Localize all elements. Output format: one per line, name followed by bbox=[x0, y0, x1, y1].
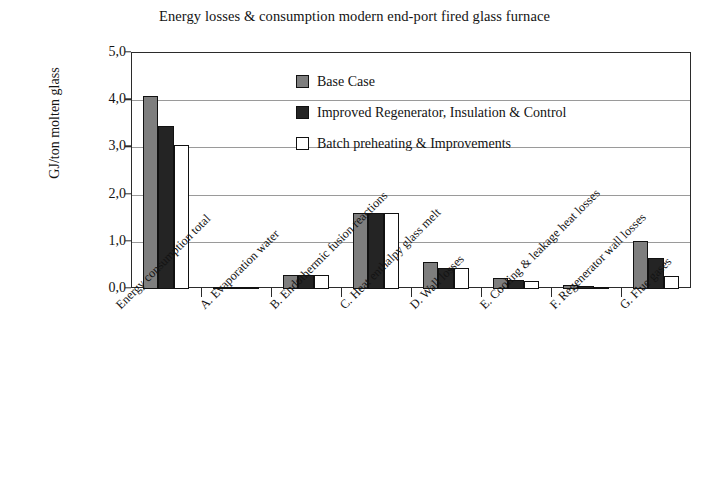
legend-item[interactable]: Improved Regenerator, Insulation & Contr… bbox=[296, 97, 566, 128]
legend-swatch-icon bbox=[296, 106, 309, 119]
bar[interactable] bbox=[314, 275, 330, 289]
y-tick-mark bbox=[125, 146, 131, 147]
y-tick-label: 5,0 bbox=[86, 44, 126, 60]
y-axis-title: GJ/ton molten glass bbox=[47, 23, 63, 223]
y-tick-label: 4,0 bbox=[86, 91, 126, 107]
chart-legend: Base CaseImproved Regenerator, Insulatio… bbox=[296, 66, 566, 159]
y-axis-tick-labels: 0,01,02,03,04,05,0 bbox=[82, 52, 126, 288]
legend-item[interactable]: Batch preheating & Improvements bbox=[296, 128, 566, 159]
y-tick-mark bbox=[125, 193, 131, 194]
legend-swatch-icon bbox=[296, 137, 309, 150]
y-tick-mark bbox=[125, 51, 131, 52]
y-tick-mark bbox=[125, 98, 131, 99]
legend-item[interactable]: Base Case bbox=[296, 66, 566, 97]
y-tick-mark bbox=[125, 287, 131, 288]
x-axis-category-labels: Energy consumption totalA. Evaporation w… bbox=[0, 288, 709, 495]
bar-group bbox=[633, 53, 680, 289]
legend-swatch-icon bbox=[296, 75, 309, 88]
legend-label: Batch preheating & Improvements bbox=[317, 136, 511, 152]
bar[interactable] bbox=[174, 145, 190, 289]
y-tick-label: 1,0 bbox=[86, 233, 126, 249]
y-tick-mark bbox=[125, 240, 131, 241]
y-tick-label: 3,0 bbox=[86, 138, 126, 154]
legend-label: Base Case bbox=[317, 74, 375, 90]
legend-label: Improved Regenerator, Insulation & Contr… bbox=[317, 105, 566, 121]
chart-title: Energy losses & consumption modern end-p… bbox=[0, 8, 709, 25]
chart-page: Energy losses & consumption modern end-p… bbox=[0, 0, 709, 495]
y-tick-label: 2,0 bbox=[86, 186, 126, 202]
